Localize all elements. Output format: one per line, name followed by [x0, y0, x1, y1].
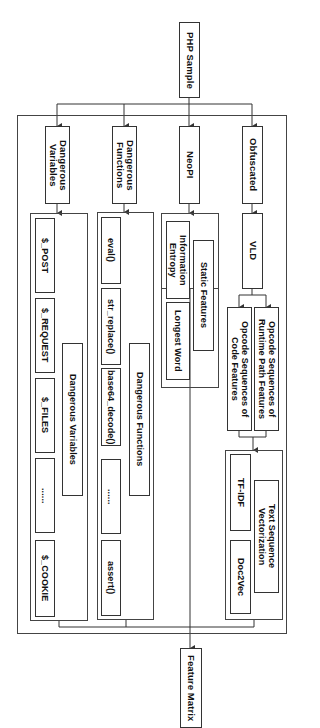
feature-matrix-node: Feature Matrix: [180, 648, 202, 728]
vld-node: VLD: [242, 213, 263, 289]
opcode-code-label: Opcode Sequences of Code Features: [230, 321, 250, 417]
dangerous-functions-label: Dangerous Functions: [115, 140, 135, 191]
vld-label: VLD: [248, 241, 258, 260]
df-group-label: Dangerous Functions: [135, 372, 145, 466]
df-item-str-replace: str_replace(): [101, 288, 121, 365]
df-item-label: str_replace(): [106, 299, 116, 354]
obfuscated-label: Obfuscated: [248, 138, 258, 191]
df-item-assert: assert(): [101, 540, 121, 616]
dv-item-label: ......: [40, 488, 50, 504]
dv-item-label: $_POST: [40, 238, 50, 273]
opcode-code-features-node: Opcode Sequences of Code Features: [227, 307, 252, 431]
dv-item-label: $_COOKIE: [40, 555, 50, 601]
obfuscated-node: Obfuscated: [242, 126, 263, 204]
php-sample-node: PHP Sample: [179, 22, 200, 98]
dangerous-variables-node: Dangerous Variables: [45, 126, 70, 204]
neopi-label: NeoPI: [185, 151, 195, 178]
opcode-runtime-label: Opcode Sequences of Runtime Path Feature…: [257, 319, 277, 419]
text-vectorization-label: Text Sequence Vectorization: [257, 504, 277, 568]
dangerous-functions-node: Dangerous Functions: [112, 126, 137, 204]
dv-item-files: $_FILES: [35, 378, 55, 453]
dangerous-variables-group-label-box: Dangerous Variables: [62, 343, 83, 496]
df-item-label: assert(): [106, 561, 116, 594]
dv-item-label: $_FILES: [40, 397, 50, 433]
dangerous-variables-label: Dangerous Variables: [48, 140, 68, 191]
dv-item-post: $_POST: [35, 218, 55, 293]
tfidf-label: TF-IDF: [236, 478, 246, 507]
dv-item-request: $_REQUEST: [35, 298, 55, 373]
dv-item-label: $_REQUEST: [40, 308, 50, 362]
df-item-eval: eval(): [101, 217, 121, 284]
df-item-base64-decode: base64_decode(): [101, 368, 121, 446]
feature-matrix-label: Feature Matrix: [186, 655, 196, 721]
dv-group-label: Dangerous Variables: [68, 374, 78, 465]
dv-item-ellipsis: ......: [35, 458, 55, 533]
df-item-label: ......: [106, 489, 116, 505]
doc2vec-node: Doc2Vec: [230, 540, 251, 614]
doc2vec-label: Doc2Vec: [236, 558, 246, 596]
df-item-label: base64_decode(): [106, 370, 116, 445]
dangerous-functions-group-label-box: Dangerous Functions: [129, 343, 150, 496]
df-item-label: eval(): [106, 238, 116, 262]
dv-item-cookie: $_COOKIE: [35, 540, 55, 617]
neopi-node: NeoPI: [179, 126, 200, 204]
opcode-runtime-path-node: Opcode Sequences of Runtime Path Feature…: [254, 307, 279, 431]
tfidf-node: TF-IDF: [230, 454, 251, 531]
neopi-outer-frame: [161, 213, 219, 388]
php-sample-label: PHP Sample: [185, 32, 195, 89]
df-item-ellipsis: ......: [101, 459, 121, 534]
text-vectorization-label-box: Text Sequence Vectorization: [254, 480, 279, 593]
